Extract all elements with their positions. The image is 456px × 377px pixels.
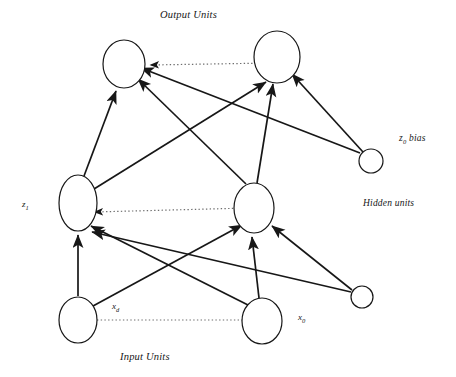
bias-node-z0[interactable]	[359, 149, 383, 173]
bias-nodes	[351, 149, 383, 308]
xd-label: xd	[112, 302, 119, 313]
edge-x2-to-z2	[252, 237, 259, 298]
edge-z1-to-y2	[94, 82, 266, 189]
hidden-layer-nodes	[59, 175, 274, 233]
connector-output-pair	[150, 63, 271, 65]
hidden-node-z1[interactable]	[59, 175, 97, 231]
network-graphic	[0, 0, 456, 377]
output-units-label: Output Units	[160, 10, 217, 21]
z0-bias-label: z0 bias	[399, 134, 426, 145]
edge-x0bias-to-z2	[272, 226, 352, 290]
x0-subscript: 0	[302, 317, 305, 324]
edge-z1-to-y1	[84, 91, 116, 176]
xd-subscript: d	[116, 306, 119, 313]
connector-hidden-pair	[94, 208, 248, 212]
hidden-node-z2[interactable]	[234, 183, 274, 233]
bias-node-x0[interactable]	[351, 286, 373, 308]
output-node-y2[interactable]	[254, 31, 300, 83]
hidden-units-label: Hidden units	[363, 199, 414, 209]
input-layer-nodes	[59, 297, 282, 344]
output-layer-nodes	[103, 31, 300, 88]
output-node-y1[interactable]	[103, 40, 145, 88]
edges-bias-to-output	[141, 68, 363, 153]
edge-z2-to-y2	[257, 84, 273, 183]
neural-network-figure: Output Units Input Units Hidden units z0…	[0, 0, 456, 377]
input-node-x1[interactable]	[59, 297, 97, 343]
input-node-x2[interactable]	[242, 298, 282, 344]
edge-x0bias-to-z1	[92, 232, 351, 292]
x0-label: x0	[298, 313, 305, 324]
input-units-label: Input Units	[120, 352, 170, 363]
edges-input-to-hidden	[78, 225, 259, 306]
edge-z2-to-y1	[138, 79, 246, 184]
edges-hidden-to-output	[84, 79, 273, 189]
z0-bias-text: bias	[406, 133, 425, 143]
z1-label: z1	[22, 200, 29, 211]
z1-subscript: 1	[26, 204, 29, 211]
